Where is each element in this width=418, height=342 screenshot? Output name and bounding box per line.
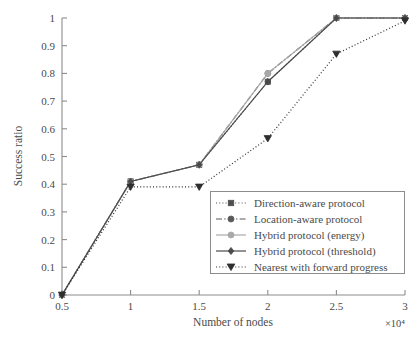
data-point-marker <box>265 71 271 77</box>
data-point-marker <box>228 232 234 238</box>
x-tick-label: 2 <box>265 300 271 312</box>
legend-label: Hybrid protocol (energy) <box>254 229 365 242</box>
y-tick-label: 0.4 <box>41 178 55 190</box>
legend-label: Nearest with forward progress <box>254 261 387 273</box>
y-tick-label: 1 <box>50 12 56 24</box>
x-tick-label: 2.5 <box>330 300 344 312</box>
x-tick-label: 1 <box>128 300 134 312</box>
y-tick-label: 0.9 <box>41 40 55 52</box>
y-tick-label: 0.1 <box>41 261 55 273</box>
figure-container: 00.10.20.30.40.50.60.70.80.91 0.511.522.… <box>0 0 418 342</box>
y-tick-label: 0.2 <box>41 234 55 246</box>
x-axis-title: Number of nodes <box>193 316 273 328</box>
y-tick-label: 0.7 <box>41 95 55 107</box>
legend-label: Direction-aware protocol <box>254 197 365 209</box>
x-tick-label: 0.5 <box>55 300 69 312</box>
x-axis-exponent-label: ×10⁴ <box>385 318 405 329</box>
chart-legend: Direction-aware protocolLocation-aware p… <box>211 192 405 274</box>
line-chart: 00.10.20.30.40.50.60.70.80.91 0.511.522.… <box>0 0 418 342</box>
data-point-marker <box>228 200 233 205</box>
legend-label: Hybrid protocol (threshold) <box>254 245 376 258</box>
y-tick-label: 0.3 <box>41 206 55 218</box>
x-tick-label: 1.5 <box>192 300 206 312</box>
y-axis-tick-labels: 00.10.20.30.40.50.60.70.80.91 <box>41 12 55 301</box>
x-axis-tick-labels: 0.511.522.53 <box>55 300 408 312</box>
x-tick-label: 3 <box>402 300 408 312</box>
legend-label: Location-aware protocol <box>254 213 362 225</box>
y-tick-label: 0.6 <box>41 123 55 135</box>
data-point-marker <box>228 216 234 222</box>
y-tick-label: 0.8 <box>41 67 55 79</box>
y-axis-title: Success ratio <box>12 126 24 187</box>
y-tick-label: 0.5 <box>41 151 55 163</box>
